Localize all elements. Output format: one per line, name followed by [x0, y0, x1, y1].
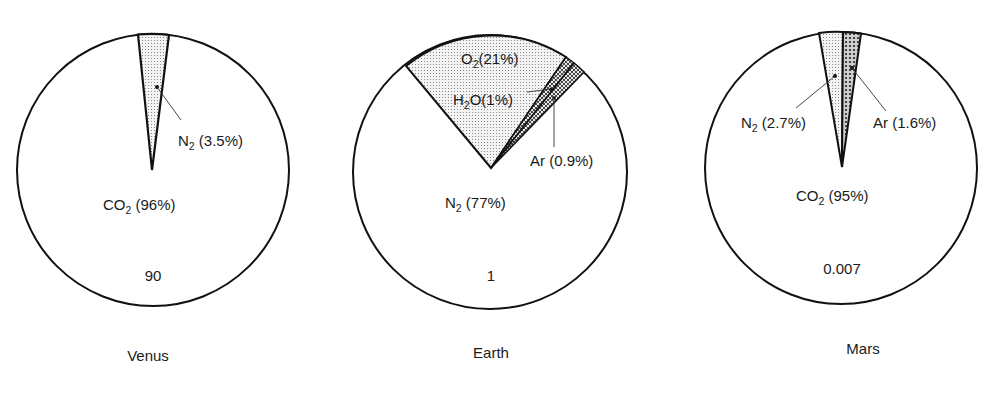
venus-pressure-value: 90 [145, 267, 162, 284]
earth-ar-label: Ar (0.9%) [530, 152, 593, 169]
mars-pressure-value: 0.007 [823, 260, 861, 277]
earth-pie: O2(21%) H2O(1%) Ar (0.9%) N2 (77%) 1 [353, 35, 627, 309]
mars-pie: N2 (2.7%) Ar (1.6%) CO2 (95%) 0.007 [705, 32, 977, 304]
mars-title: Mars [846, 340, 879, 357]
venus-title: Venus [127, 347, 169, 364]
earth-h2o-leader-dot [549, 87, 552, 90]
atmosphere-composition-figure: N2 (3.5%) CO2 (96%) 90 Venus O2(21%) H2O… [0, 0, 992, 395]
mars-ar-label: Ar (1.6%) [873, 114, 936, 131]
earth-pressure-value: 1 [487, 267, 495, 284]
venus-pie: N2 (3.5%) CO2 (96%) 90 [17, 34, 289, 306]
earth-title: Earth [473, 344, 509, 361]
